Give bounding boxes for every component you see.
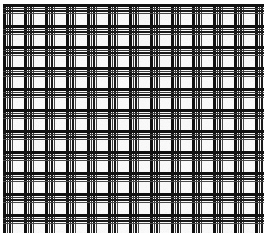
horizontal-threads-layer <box>3 4 264 233</box>
plaid-pattern <box>3 4 264 233</box>
bottom-margin <box>0 233 267 243</box>
texture-canvas <box>0 0 267 243</box>
